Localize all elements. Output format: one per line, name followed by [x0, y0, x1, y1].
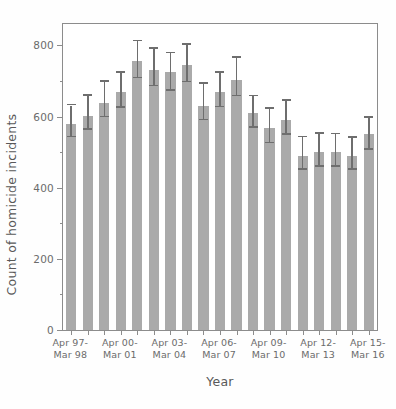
x-axis-tick: [154, 330, 155, 335]
bar[interactable]: [149, 70, 159, 330]
bar[interactable]: [298, 156, 308, 330]
bar-group[interactable]: [231, 24, 241, 330]
bar-group[interactable]: [331, 24, 341, 330]
error-bar: [170, 53, 172, 90]
x-axis-tick: [137, 330, 138, 335]
x-axis-tick-label: Apr 03-Mar 04: [152, 337, 188, 361]
error-bar-cap-upper: [199, 82, 208, 84]
error-bar-cap-lower: [348, 168, 357, 170]
error-bar-cap-upper: [215, 71, 224, 73]
bar-group[interactable]: [198, 24, 208, 330]
x-axis-tick: [71, 330, 72, 335]
bar-group[interactable]: [298, 24, 308, 330]
bar-group[interactable]: [314, 24, 324, 330]
error-bar-cap-lower: [67, 136, 76, 138]
bar-group[interactable]: [165, 24, 175, 330]
y-axis-minor-tick: [60, 81, 64, 82]
bar-group[interactable]: [99, 24, 109, 330]
error-bar: [252, 96, 254, 128]
x-axis-tick: [104, 330, 105, 335]
bar-group[interactable]: [364, 24, 374, 330]
bar-group[interactable]: [149, 24, 159, 330]
error-bar-cap-upper: [265, 107, 274, 109]
x-axis-tick-label-line: Apr 09-: [251, 337, 287, 349]
bar[interactable]: [182, 65, 192, 330]
error-bar-cap-lower: [199, 119, 208, 121]
bars-layer: [63, 24, 377, 330]
x-axis-tick-label-line: Apr 03-: [152, 337, 188, 349]
bar[interactable]: [132, 61, 142, 330]
error-bar: [137, 41, 139, 78]
error-bar-cap-lower: [364, 148, 373, 150]
error-bar-cap-lower: [166, 89, 175, 91]
bar[interactable]: [364, 134, 374, 330]
bar[interactable]: [165, 72, 175, 330]
bar[interactable]: [215, 92, 225, 330]
x-axis-tick-label-line: Mar 10: [251, 349, 287, 361]
x-axis-tick: [286, 330, 287, 335]
x-axis-tick-labels: Apr 97-Mar 98Apr 00-Mar 01Apr 03-Mar 04A…: [62, 337, 378, 369]
bar-group[interactable]: [281, 24, 291, 330]
bar[interactable]: [66, 124, 76, 330]
bar[interactable]: [314, 152, 324, 330]
bar-group[interactable]: [83, 24, 93, 330]
error-bar-cap-lower: [265, 142, 274, 144]
homicide-incidents-bar-chart: Count of homicide incidents 020040060080…: [0, 0, 396, 409]
y-axis-tick: [57, 188, 63, 189]
error-bar-cap-lower: [282, 133, 291, 135]
bar[interactable]: [116, 92, 126, 330]
error-bar-cap-lower: [315, 165, 324, 167]
bar[interactable]: [231, 80, 241, 330]
y-axis-tick: [57, 330, 63, 331]
error-bar: [269, 109, 271, 143]
error-bar-cap-upper: [83, 94, 92, 96]
error-bar: [186, 45, 188, 83]
error-bar-cap-upper: [149, 47, 158, 49]
error-bar-cap-upper: [364, 116, 373, 118]
x-axis-tick-label-line: Mar 16: [350, 349, 386, 361]
x-axis-tick-label-line: Apr 15-: [350, 337, 386, 349]
bar-group[interactable]: [264, 24, 274, 330]
error-bar-cap-upper: [298, 136, 307, 138]
y-axis-title: Count of homicide incidents: [0, 0, 22, 409]
bar[interactable]: [198, 106, 208, 330]
bar-group[interactable]: [132, 24, 142, 330]
bar[interactable]: [331, 152, 341, 330]
error-bar: [70, 106, 72, 138]
bar-group[interactable]: [248, 24, 258, 330]
bar-group[interactable]: [116, 24, 126, 330]
x-axis-tick: [336, 330, 337, 335]
error-bar: [87, 96, 89, 130]
plot-area: 0200400600800: [62, 23, 378, 331]
error-bar-cap-lower: [83, 128, 92, 130]
bar[interactable]: [83, 116, 93, 330]
error-bar: [153, 49, 155, 86]
x-axis-tick: [253, 330, 254, 335]
error-bar-cap-lower: [298, 168, 307, 170]
x-axis-tick: [352, 330, 353, 335]
x-axis-tick-label-line: Mar 07: [201, 349, 237, 361]
bar[interactable]: [99, 103, 109, 330]
x-axis-tick-label-line: Apr 00-: [102, 337, 138, 349]
bar[interactable]: [281, 120, 291, 330]
error-bar-cap-upper: [182, 43, 191, 45]
x-axis-tick: [170, 330, 171, 335]
bar[interactable]: [248, 113, 258, 330]
bar-group[interactable]: [182, 24, 192, 330]
x-axis-tick: [88, 330, 89, 335]
error-bar-cap-lower: [116, 106, 125, 108]
x-axis-tick: [369, 330, 370, 335]
bar-group[interactable]: [66, 24, 76, 330]
y-axis-tick-label: 200: [33, 253, 54, 265]
error-bar-cap-lower: [331, 165, 340, 167]
error-bar: [203, 84, 205, 121]
bar[interactable]: [264, 128, 274, 330]
x-axis-tick: [121, 330, 122, 335]
x-axis-tick: [270, 330, 271, 335]
bar-group[interactable]: [215, 24, 225, 330]
bar[interactable]: [347, 156, 357, 330]
bar-group[interactable]: [347, 24, 357, 330]
y-axis-minor-tick: [60, 223, 64, 224]
error-bar-cap-upper: [315, 132, 324, 134]
y-axis-tick-label: 800: [33, 39, 54, 51]
